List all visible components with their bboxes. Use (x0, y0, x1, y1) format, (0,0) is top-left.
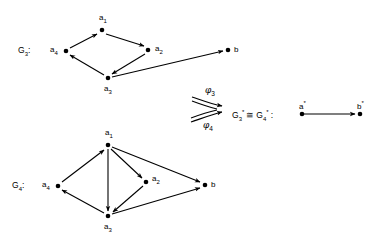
g3-edge-a1-a2 (106, 34, 144, 46)
iso-colon: : (269, 110, 273, 120)
iso-g4-sub: 4 (263, 116, 266, 122)
g4-edges (62, 147, 200, 214)
quotient-node-bstar (358, 112, 363, 117)
g3-node-label-a1: a1 (99, 14, 107, 24)
g4-edge-a2-a3 (113, 186, 143, 212)
diagram-vector-layer (0, 0, 386, 247)
g3-edges (70, 34, 223, 77)
g4-node-label-a3: a3 (104, 223, 112, 233)
g3-node-label-a4: a4 (50, 46, 58, 56)
g4-node-label-b: b (211, 181, 215, 189)
iso-g3-base: G (232, 110, 239, 120)
g3-node-label-b: b (234, 46, 238, 54)
g3-nodes (64, 28, 231, 81)
figure-canvas: G3: a1 a2 a3 a4 b φ3 φ4 G3*≅G4*: a* b* G… (0, 0, 386, 247)
g4-node-label-a1: a1 (105, 129, 113, 139)
iso-g4-base: G (256, 110, 263, 120)
graph-label-g3-colon: : (28, 45, 30, 55)
g4-edge-a4-a1 (62, 150, 104, 182)
g3-edge-a3-a4 (70, 55, 104, 75)
g4-nodes (56, 143, 208, 219)
morphism-label-phi3: φ3 (205, 86, 215, 97)
g4-edge-a3-a4 (62, 190, 104, 213)
graph-label-g4-base: G (12, 180, 19, 190)
g4-node-a2 (144, 180, 149, 185)
phi3-arrow-inner (192, 101, 217, 109)
g3-node-label-a3: a3 (104, 85, 112, 95)
g4-node-b (203, 183, 208, 188)
phi3-arrow-outer (192, 97, 222, 106)
g3-node-a4 (64, 49, 69, 54)
g4-node-label-a2: a2 (152, 175, 160, 185)
morphism-label-phi4: φ4 (203, 121, 213, 132)
g3-edge-a4-a1 (70, 34, 97, 48)
g3-node-b (226, 48, 231, 53)
graph-label-g4: G4: (12, 181, 24, 192)
g4-node-a4 (56, 184, 61, 189)
g4-node-a1 (106, 143, 111, 148)
graph-label-g3: G3: (18, 46, 30, 57)
morphism-arrows (191, 97, 222, 122)
graph-label-g3-base: G (18, 45, 25, 55)
quotient-node-label-bstar: b* (357, 100, 364, 111)
isomorphism-statement: G3*≅G4*: (232, 109, 273, 122)
graph-label-g4-colon: : (22, 180, 24, 190)
quotient-node-astar (300, 112, 305, 117)
g3-node-label-a2: a2 (155, 45, 163, 55)
quotient-graph (300, 112, 363, 117)
g4-node-label-a4: a4 (42, 181, 50, 191)
g3-node-a2 (146, 48, 151, 53)
iso-g3-sub: 3 (239, 116, 242, 122)
g3-node-a3 (106, 76, 111, 81)
iso-symbol: ≅ (244, 110, 256, 120)
g3-edge-a2-a3 (112, 54, 145, 74)
g4-node-a3 (106, 214, 111, 219)
g3-node-a1 (100, 28, 105, 33)
quotient-node-label-astar: a* (299, 100, 306, 111)
